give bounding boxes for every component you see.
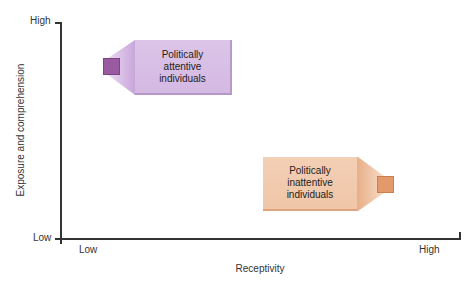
- x-axis-title: Receptivity: [22, 263, 476, 274]
- y-axis-line: [60, 22, 62, 240]
- x-axis-high-tick: [459, 232, 461, 239]
- inattentive-line-3: individuals: [287, 189, 334, 201]
- x-axis-low-tick: [60, 238, 62, 244]
- inattentive-callout: Politically inattentive individuals: [263, 157, 358, 211]
- y-axis-title: Exposure and comprehension: [15, 64, 26, 197]
- attentive-marker: [103, 58, 120, 75]
- x-axis-line: [60, 238, 461, 240]
- attentive-line-3: individuals: [159, 73, 206, 85]
- y-axis-low-label: Low: [33, 232, 51, 243]
- attentive-line-2: attentive: [159, 61, 206, 73]
- attentive-line-1: Politically: [159, 49, 206, 61]
- inattentive-marker: [377, 176, 394, 193]
- inattentive-line-2: inattentive: [287, 177, 334, 189]
- x-axis-high-label: High: [419, 244, 440, 255]
- y-axis-high-label: High: [30, 15, 51, 26]
- callout-tapers: [0, 0, 476, 283]
- y-axis-high-tick: [55, 22, 62, 24]
- inattentive-line-1: Politically: [287, 165, 334, 177]
- attentive-callout: Politically attentive individuals: [135, 40, 232, 95]
- x-axis-low-label: Low: [79, 244, 97, 255]
